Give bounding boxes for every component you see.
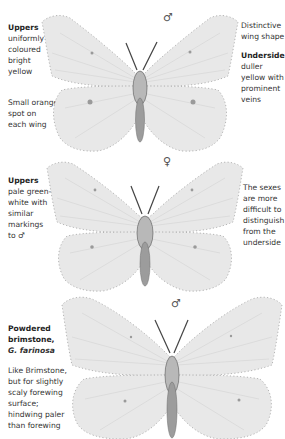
- note-line: bright: [8, 55, 44, 66]
- left-hindwing: [54, 86, 141, 151]
- note-heading: Underside: [241, 50, 285, 61]
- note-line: scaly forewing: [8, 387, 67, 398]
- abdomen: [167, 382, 177, 438]
- hindwing-spot-right: [238, 399, 241, 402]
- right-hindwing: [145, 232, 232, 291]
- antenna-right: [148, 186, 159, 214]
- male-uppers-note: Uppers uniformly coloured bright yellow: [8, 22, 44, 77]
- left-forewing: [47, 162, 145, 232]
- male-wing-shape-note: Distinctive wing shape: [241, 20, 284, 42]
- abdomen: [140, 242, 150, 286]
- note-line: wing shape: [241, 31, 284, 42]
- forewing-spot-right: [189, 51, 192, 54]
- left-forewing: [42, 15, 140, 86]
- forewing-spot-left: [94, 189, 97, 192]
- note-line: veins: [241, 94, 285, 105]
- note-line: Like Brimstone,: [8, 365, 67, 376]
- note-line: uniformly: [8, 33, 44, 44]
- species-name: G. farinosa: [8, 345, 55, 356]
- note-line: distinguish: [243, 215, 284, 226]
- butterfly-illustration-male: [40, 8, 240, 153]
- note-line: The sexes: [243, 182, 284, 193]
- note-line: than forewing: [8, 420, 67, 431]
- powdered-title-note: Powdered brimstone, G. farinosa: [8, 323, 55, 356]
- right-hindwing: [172, 375, 271, 439]
- left-hindwing: [73, 375, 172, 439]
- note-line: hindwing paler: [8, 409, 67, 420]
- male-underside-note: Underside duller yellow with prominent v…: [241, 50, 285, 105]
- note-line: from the: [243, 226, 284, 237]
- antenna-left: [131, 186, 142, 214]
- right-forewing: [172, 297, 282, 375]
- note-line: Distinctive: [241, 20, 284, 31]
- powdered-description-note: Like Brimstone, but for slightly scaly f…: [8, 365, 67, 431]
- hindwing-spot-right: [191, 100, 196, 105]
- forewing-spot-left: [91, 52, 94, 55]
- abdomen: [136, 98, 145, 142]
- note-line: surface;: [8, 398, 67, 409]
- note-line: coloured: [8, 44, 44, 55]
- hindwing-spot-left: [124, 400, 127, 403]
- note-line: yellow: [8, 66, 44, 77]
- forewing-spot-left: [130, 336, 132, 338]
- note-heading: Uppers: [8, 22, 44, 33]
- note-line: prominent: [241, 83, 285, 94]
- note-line: yellow with: [241, 72, 285, 83]
- butterfly-illustration-female: [45, 158, 245, 293]
- hindwing-spot-right: [193, 245, 197, 249]
- forewing-spot-right: [230, 335, 232, 337]
- note-line: duller: [241, 61, 285, 72]
- left-hindwing: [59, 232, 146, 291]
- note-heading: brimstone,: [8, 334, 55, 345]
- right-hindwing: [140, 86, 227, 151]
- butterfly-illustration-powdered: [60, 295, 285, 439]
- left-forewing: [62, 297, 172, 375]
- hindwing-spot-left: [90, 245, 94, 249]
- note-line: are more: [243, 193, 284, 204]
- female-sexes-note: The sexes are more difficult to distingu…: [243, 182, 284, 248]
- forewing-spot-right: [191, 189, 194, 192]
- hindwing-spot-left: [88, 100, 93, 105]
- note-line: underside: [243, 237, 284, 248]
- right-forewing: [145, 162, 243, 232]
- note-heading: Powdered: [8, 323, 55, 334]
- note-line: but for slightly: [8, 376, 67, 387]
- note-line: difficult to: [243, 204, 284, 215]
